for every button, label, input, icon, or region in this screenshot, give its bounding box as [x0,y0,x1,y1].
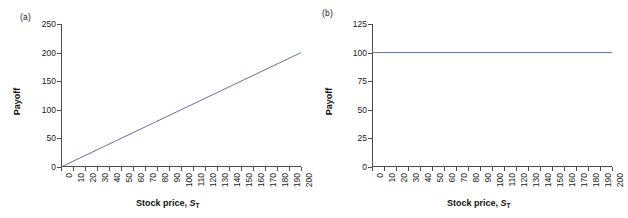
panel-b-x-tick-label: 30 [412,173,421,182]
panel-b-x-tick [516,167,517,171]
panel-a-x-tick [181,167,182,171]
panel-a-y-tick [57,53,61,54]
panel-b-y-tick-label: 50 [358,106,367,115]
panel-b-x-tick-label: 90 [484,173,493,182]
panel-a-y-tick [57,110,61,111]
panel-a-x-tick [73,167,74,171]
panel-a-x-tick-label: 0 [65,173,74,178]
panel-b-x-tick [612,167,613,171]
panel-a-x-tick-label: 90 [173,173,182,182]
panel-b-y-tick [368,110,372,111]
panel-a-x-tick [205,167,206,171]
panel-a-x-tick-label: 30 [101,173,110,182]
panel-b-x-tick [468,167,469,171]
panel-b-x-tick-label: 120 [520,173,529,187]
panel-b-x-tick [372,167,373,171]
panel-a-x-axis-label: Stock price, ST [136,199,200,208]
panel-a-y-tick [57,24,61,25]
panel-b-x-tick [456,167,457,171]
panel-a-x-tick-label: 190 [293,173,302,187]
panel-b-y-tick [368,24,372,25]
panel-a-y-tick [57,138,61,139]
panel-b-x-tick [492,167,493,171]
panel-b-x-axis-label-main: Stock price, [447,198,501,208]
panel-a-x-tick [109,167,110,171]
panel-b-x-tick [384,167,385,171]
panel-a-x-axis-label-main: Stock price, [136,198,190,208]
panel-b-y-tick-label: 0 [362,163,367,172]
panel-a-x-tick [133,167,134,171]
panel-b-x-tick-label: 200 [616,173,625,187]
panel-a-x-tick-label: 180 [281,173,290,187]
panel-b-x-tick-label: 40 [424,173,433,182]
panel-a-x-tick [61,167,62,171]
panel-a-x-tick-label: 10 [77,173,86,182]
panel-b-y-axis-label: Payoff [325,79,334,125]
panel-a-x-tick [241,167,242,171]
panel-a-x-tick [217,167,218,171]
panel-a: (a) Payoff 05010015020025001020304050607… [0,0,314,218]
panel-a-x-axis-label-var: S [190,198,196,208]
panel-a-y-tick-label: 50 [47,134,56,143]
panel-b-y-tick [368,81,372,82]
panel-b-y-tick-label: 100 [353,48,367,57]
panel-a-x-tick-label: 170 [269,173,278,187]
panel-a-x-tick [289,167,290,171]
panel-b-x-tick-label: 20 [400,173,409,182]
panel-b-x-tick-label: 160 [568,173,577,187]
panel-b-y-tick-label: 75 [358,77,367,86]
panel-b-x-tick [444,167,445,171]
panel-b-x-tick [504,167,505,171]
panel-b-x-tick [408,167,409,171]
panel-b-data-line [372,24,612,167]
panel-a-x-tick-label: 20 [89,173,98,182]
panel-b-tag: (b) [322,8,333,18]
panel-b-x-tick-label: 100 [496,173,505,187]
panel-b-y-tick [368,138,372,139]
panel-b-x-tick-label: 150 [556,173,565,187]
panel-b-x-tick-label: 50 [436,173,445,182]
panel-a-x-tick-label: 40 [113,173,122,182]
panel-b-x-axis-label-var: S [501,198,507,208]
panel-a-x-tick-label: 120 [209,173,218,187]
figure-panels: (a) Payoff 05010015020025001020304050607… [0,0,628,218]
panel-b-x-tick-label: 80 [472,173,481,182]
panel-b-x-tick [600,167,601,171]
panel-b-x-tick-label: 170 [580,173,589,187]
panel-b-plot-area: 0255075100125010203040506070809010011012… [372,24,612,167]
panel-b-x-tick-label: 180 [592,173,601,187]
panel-a-x-tick [301,167,302,171]
panel-a-x-tick [265,167,266,171]
panel-a-y-tick [57,81,61,82]
panel-a-x-axis-label-sub: T [196,202,200,209]
panel-b-x-tick [432,167,433,171]
panel-b-x-axis-label: Stock price, ST [447,199,511,208]
panel-a-y-tick-label: 0 [51,163,56,172]
panel-a-data-line [61,24,301,167]
panel-b-x-tick [576,167,577,171]
panel-a-y-tick-label: 250 [42,20,56,29]
panel-a-x-tick [253,167,254,171]
panel-b-y-tick-label: 25 [358,134,367,143]
panel-a-x-tick [157,167,158,171]
panel-a-x-tick [97,167,98,171]
panel-b-x-tick [540,167,541,171]
panel-b-x-tick-label: 130 [532,173,541,187]
panel-a-x-tick-label: 130 [221,173,230,187]
panel-a-tag: (a) [20,12,31,22]
panel-a-x-tick [193,167,194,171]
panel-a-x-tick [229,167,230,171]
panel-b-x-tick [564,167,565,171]
panel-a-x-tick-label: 160 [257,173,266,187]
panel-a-x-tick-label: 110 [197,173,206,187]
panel-a-x-tick-label: 100 [185,173,194,187]
panel-a-x-tick [85,167,86,171]
panel-a-x-tick-label: 70 [149,173,158,182]
panel-a-x-tick-label: 80 [161,173,170,182]
panel-b-x-tick [420,167,421,171]
panel-a-y-tick-label: 200 [42,48,56,57]
panel-a-plot-area: 0501001502002500102030405060708090100110… [61,24,301,167]
panel-b-x-tick [552,167,553,171]
panel-a-y-tick-label: 100 [42,106,56,115]
panel-a-x-tick-label: 60 [137,173,146,182]
